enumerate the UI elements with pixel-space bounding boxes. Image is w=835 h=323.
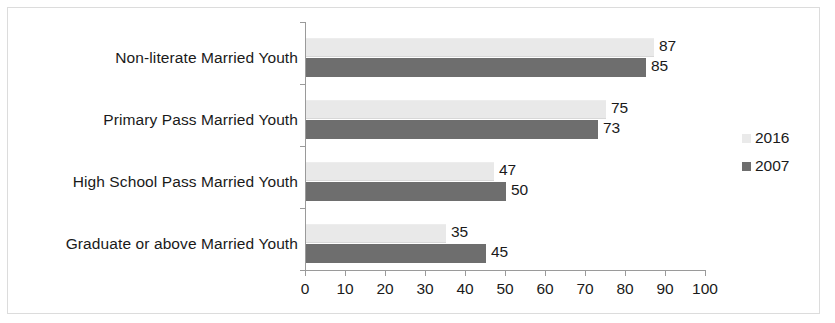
legend-swatch-2016-icon (742, 134, 751, 143)
bar-value-2016-0: 87 (659, 37, 676, 55)
x-axis-tick (545, 271, 546, 276)
category-label-2: High School Pass Married Youth (20, 173, 298, 191)
bar-chart-figure: Non-literate Married Youth Primary Pass … (0, 0, 835, 323)
x-axis-tick-label: 80 (616, 280, 633, 298)
x-axis-tick (625, 271, 626, 276)
x-axis-tick-label: 30 (416, 280, 433, 298)
bar-2016-1 (306, 100, 606, 119)
x-axis-tick-label: 90 (656, 280, 673, 298)
x-axis-tick-label: 100 (692, 280, 718, 298)
bar-2007-3 (306, 244, 486, 263)
x-axis-tick (425, 271, 426, 276)
legend-label-2007: 2007 (755, 157, 789, 175)
x-axis-tick (345, 271, 346, 276)
bar-value-2007-3: 45 (491, 243, 508, 261)
legend-swatch-2007-icon (742, 162, 751, 171)
x-axis-tick-label: 70 (576, 280, 593, 298)
bar-value-2016-3: 35 (451, 223, 468, 241)
y-axis-tick (300, 22, 305, 23)
y-axis-tick (300, 208, 305, 209)
bar-value-2016-2: 47 (499, 161, 516, 179)
category-axis-labels: Non-literate Married Youth Primary Pass … (20, 22, 298, 270)
y-axis-tick (300, 146, 305, 147)
x-axis-tick-label: 60 (536, 280, 553, 298)
chart-legend: 2016 2007 (742, 124, 812, 180)
category-label-1: Primary Pass Married Youth (20, 111, 298, 129)
x-axis-tick (705, 271, 706, 276)
y-axis-tick (300, 84, 305, 85)
legend-item-2016[interactable]: 2016 (742, 124, 812, 152)
category-label-3: Graduate or above Married Youth (20, 235, 298, 253)
x-axis-tick (385, 271, 386, 276)
bar-2007-0 (306, 58, 646, 77)
bar-2016-0 (306, 38, 654, 57)
bar-2007-1 (306, 120, 598, 139)
x-axis-tick-label: 0 (301, 280, 310, 298)
bar-value-2007-1: 73 (603, 119, 620, 137)
x-axis-tick (465, 271, 466, 276)
bar-value-2007-0: 85 (651, 57, 668, 75)
category-label-0: Non-literate Married Youth (20, 49, 298, 67)
x-axis-tick-label: 50 (496, 280, 513, 298)
x-axis-tick-label: 40 (456, 280, 473, 298)
bar-value-2007-2: 50 (511, 181, 528, 199)
x-axis-tick-label: 20 (376, 280, 393, 298)
bar-2016-3 (306, 224, 446, 243)
bar-2007-2 (306, 182, 506, 201)
legend-label-2016: 2016 (755, 129, 789, 147)
bar-value-2016-1: 75 (611, 99, 628, 117)
plot-area: 87 85 75 73 47 50 35 45 (305, 22, 705, 270)
x-axis-tick (505, 271, 506, 276)
x-axis-tick-label: 10 (336, 280, 353, 298)
x-axis-tick (665, 271, 666, 276)
x-axis-tick (305, 271, 306, 276)
x-axis-tick (585, 271, 586, 276)
legend-item-2007[interactable]: 2007 (742, 152, 812, 180)
bar-2016-2 (306, 162, 494, 181)
